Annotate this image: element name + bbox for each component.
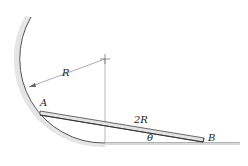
circular-surface-shading <box>14 16 105 147</box>
diagram-canvas: R A 2R θ B <box>0 0 248 166</box>
radius-label: R <box>62 68 70 78</box>
radius-arrowhead <box>29 83 36 87</box>
angle-theta-label: θ <box>147 133 153 143</box>
floor-shading <box>105 143 240 145</box>
point-a-label: A <box>40 98 47 108</box>
rod-length-label: 2R <box>134 115 148 125</box>
point-b-label: B <box>208 133 215 143</box>
